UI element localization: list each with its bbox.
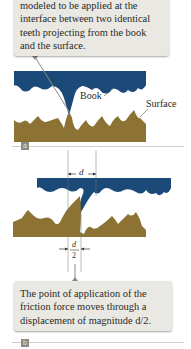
surface-leader: [140, 109, 148, 117]
dim-arrowhead-d-left: [68, 173, 71, 176]
surface-shape-b: [13, 196, 146, 237]
callout-top-line: and the surface.: [20, 39, 163, 52]
panel-badge-a: a: [21, 142, 29, 150]
book-label: Book: [80, 90, 102, 101]
callout-bottom-line: friction force moves through a: [20, 300, 166, 313]
callout-bottom-line: The point of application of the: [20, 287, 166, 300]
panel-divider-b: [12, 342, 184, 343]
dimension-half-denominator: 2: [72, 251, 76, 260]
callout-top: modeled to be applied at the interface b…: [14, 0, 169, 56]
dim-arrowhead-d-right: [93, 173, 96, 176]
dimension-half-numerator: d: [72, 240, 76, 249]
callout-pointer-tip-a: [32, 56, 38, 60]
callout-bottom: The point of application of the friction…: [14, 281, 172, 331]
dim-arrowhead-half-left: [65, 248, 68, 251]
surface-label: Surface: [146, 98, 177, 109]
callout-top-line: interface between two identical: [20, 12, 163, 25]
book-shape-b: [37, 178, 171, 220]
callout-top-line: modeled to be applied at the: [20, 0, 163, 12]
dim-arrowhead-half-right: [81, 248, 84, 251]
callout-bottom-line: displacement of magnitude d/2.: [20, 314, 166, 327]
panel-badge-b: b: [21, 339, 29, 347]
panel-divider-a: [12, 146, 184, 147]
callout-top-line: teeth projecting from the book: [20, 26, 163, 39]
dimension-d-label: d: [79, 167, 84, 177]
surface-shape-a: [14, 110, 146, 142]
